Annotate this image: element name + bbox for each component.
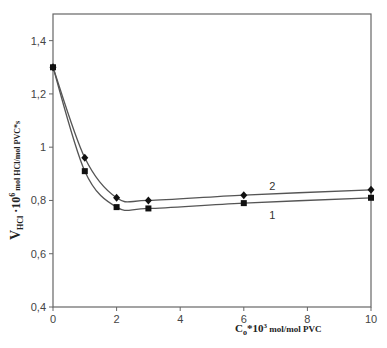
y-tick-label: 0,8 bbox=[31, 194, 46, 206]
square-marker bbox=[114, 204, 120, 210]
y-axis-title: VHCl ·106 mol HCl/mol PVC*s bbox=[8, 121, 25, 240]
square-marker bbox=[241, 200, 247, 206]
diamond-marker bbox=[113, 194, 120, 202]
x-axis-ticks: 0246810 bbox=[50, 307, 377, 325]
y-axis-ticks: 0,40,60,811,21,4 bbox=[31, 35, 53, 313]
curve-labels: 12 bbox=[269, 180, 275, 221]
curve-series-1 bbox=[53, 67, 371, 210]
square-marker bbox=[82, 168, 88, 174]
diamond-marker bbox=[368, 186, 375, 194]
x-tick-label: 4 bbox=[177, 313, 183, 325]
x-tick-label: 0 bbox=[50, 313, 56, 325]
square-marker bbox=[145, 205, 151, 211]
curve-series-2 bbox=[53, 67, 371, 202]
x-axis-title: Co*103 mol/mol PVC bbox=[235, 322, 321, 337]
y-tick-label: 1,4 bbox=[31, 35, 46, 47]
data-markers bbox=[50, 63, 375, 211]
x-tick-label: 10 bbox=[365, 313, 377, 325]
y-tick-label: 1,2 bbox=[31, 88, 46, 100]
square-marker bbox=[368, 195, 374, 201]
curve-label-1: 1 bbox=[269, 209, 275, 221]
y-tick-label: 1 bbox=[40, 141, 46, 153]
y-tick-label: 0,4 bbox=[31, 301, 46, 313]
plot-frame bbox=[53, 14, 371, 307]
data-curves bbox=[53, 67, 371, 210]
y-tick-label: 0,6 bbox=[31, 248, 46, 260]
diamond-marker bbox=[145, 196, 152, 204]
x-tick-label: 2 bbox=[114, 313, 120, 325]
diamond-marker bbox=[240, 191, 247, 199]
line-chart: 0,40,60,811,21,4 0246810 12 Co*103 mol/m… bbox=[0, 0, 387, 348]
plot-border bbox=[53, 14, 371, 307]
curve-label-2: 2 bbox=[269, 180, 275, 192]
diamond-marker bbox=[81, 154, 88, 162]
